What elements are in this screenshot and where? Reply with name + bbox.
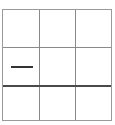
cell-r1-c3[interactable] xyxy=(76,10,112,47)
cell-r2-c2[interactable] xyxy=(40,48,75,85)
game-board xyxy=(2,9,112,121)
cell-r2-c1[interactable] xyxy=(3,48,39,85)
cell-r2-c3[interactable] xyxy=(76,48,112,85)
cell-r3-c2[interactable] xyxy=(40,87,75,121)
cell-r3-c1[interactable] xyxy=(3,87,39,121)
cell-r1-c1[interactable] xyxy=(3,10,39,47)
cell-r3-c3[interactable] xyxy=(76,87,112,121)
dash-mark xyxy=(11,66,33,68)
cell-r1-c2[interactable] xyxy=(40,10,75,47)
